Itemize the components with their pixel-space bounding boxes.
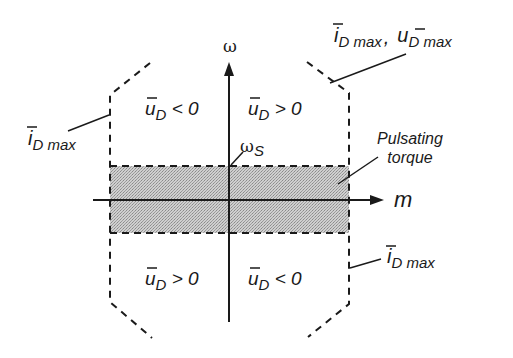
left-limit-leader bbox=[68, 115, 109, 131]
svg-text:iD max,uD max: iD max,uD max bbox=[334, 24, 452, 50]
quadrant-label-bottom-right: uD < 0 bbox=[248, 268, 302, 293]
svg-text:uD < 0: uD < 0 bbox=[248, 268, 302, 293]
quadrant-label-top-left: uD < 0 bbox=[145, 98, 199, 123]
right-limit-label: iD max bbox=[386, 245, 435, 271]
band-label-line1: Pulsating bbox=[377, 130, 443, 147]
band-label-line2: torque bbox=[387, 149, 432, 166]
diagram-svg: ω m ωS uD < 0 uD > 0 uD > 0 uD < 0 iD ma… bbox=[0, 0, 513, 358]
omega-s-label: ωS bbox=[240, 136, 264, 159]
omega-axis-arrowhead bbox=[224, 62, 234, 76]
quadrant-label-top-right: uD > 0 bbox=[248, 98, 302, 123]
svg-text:uD > 0: uD > 0 bbox=[248, 98, 302, 123]
quadrant-label-bottom-left: uD > 0 bbox=[145, 268, 199, 293]
omega-axis-label: ω bbox=[223, 36, 237, 56]
corner-limit-leader bbox=[330, 54, 406, 83]
m-axis-arrowhead bbox=[370, 195, 384, 205]
right-limit-leader bbox=[350, 259, 381, 268]
corner-limit-label: iD max,uD max bbox=[333, 24, 452, 50]
torque-speed-diagram: ω m ωS uD < 0 uD > 0 uD > 0 uD < 0 iD ma… bbox=[0, 0, 513, 358]
svg-text:iD max: iD max bbox=[387, 245, 435, 271]
svg-text:uD > 0: uD > 0 bbox=[145, 268, 199, 293]
svg-text:uD < 0: uD < 0 bbox=[145, 98, 199, 123]
m-axis-label: m bbox=[394, 187, 412, 212]
